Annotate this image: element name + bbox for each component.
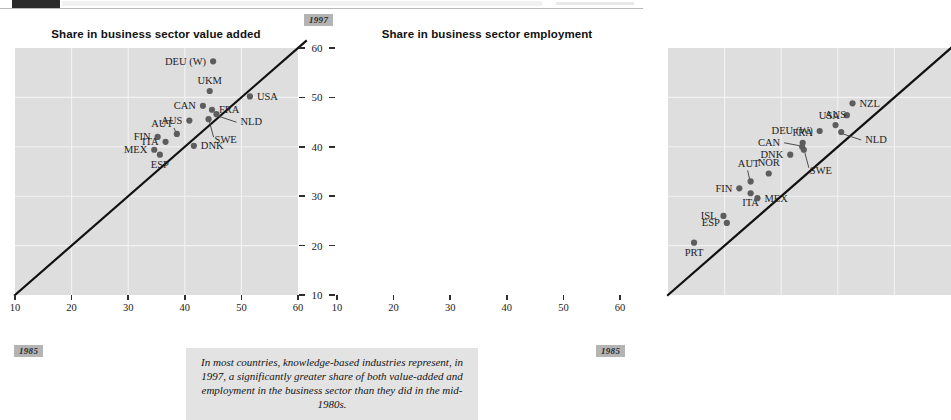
x-axis-label: 20 — [388, 302, 399, 313]
point-label: DNK — [201, 140, 224, 151]
point-label: USA — [257, 91, 278, 102]
figure-caption: In most countries, knowledge-based indus… — [186, 348, 478, 420]
point-label: FRA — [792, 127, 813, 138]
plot-area-employment: NZLUSAAUSDEU (W)NLDFRACANSWEDNKNORAUTFIN… — [668, 48, 951, 295]
x-axis-tick — [619, 295, 621, 300]
data-point-nzl: NZL — [849, 98, 880, 109]
x-axis-tick — [184, 295, 186, 300]
point-label: AUT — [738, 158, 760, 169]
chart-panel-value-added: Share in business sector value added DEU… — [0, 0, 312, 340]
x-axis-tick — [71, 295, 73, 300]
x-axis-tick — [506, 295, 508, 300]
data-point-deuw: DEU (W) — [165, 56, 216, 68]
y-axis-tick-right — [329, 195, 335, 197]
data-point-nld: NLD — [838, 129, 887, 145]
data-point-esp: ESP — [151, 152, 169, 170]
shared-y-axis: 605040302010 — [303, 0, 331, 340]
data-point-usa: USA — [247, 91, 279, 102]
x-axis-tick — [241, 295, 243, 300]
y-axis-tick-right — [329, 97, 335, 99]
year-chip-1985-left: 1985 — [14, 345, 43, 357]
y-axis-label: 50 — [305, 91, 329, 103]
point-label: FIN — [715, 183, 732, 194]
point-label: NLD — [865, 134, 887, 145]
y-axis-tick-right — [329, 47, 335, 49]
point-label: CAN — [174, 100, 197, 111]
x-axis-tick — [563, 295, 565, 300]
data-point-esp: ESP — [702, 217, 730, 228]
point-label: PRT — [685, 247, 704, 258]
point-label: MEX — [764, 193, 788, 204]
point-label: UKM — [197, 75, 222, 86]
x-axis-label: 60 — [293, 302, 304, 313]
data-point-mex: MEX — [754, 193, 788, 204]
x-axis-label: 60 — [615, 302, 626, 313]
point-label: NZL — [860, 98, 880, 109]
data-point-can: CAN — [174, 100, 206, 111]
year-chip-1985-right: 1985 — [596, 345, 625, 357]
chart-title-left: Share in business sector value added — [0, 28, 312, 40]
data-point-aus: AUS — [825, 109, 846, 128]
x-axis-label: 50 — [236, 302, 247, 313]
point-label: CAN — [758, 137, 781, 148]
x-axis-tick — [393, 295, 395, 300]
point-label: FRA — [219, 104, 240, 115]
point-label: SWE — [810, 165, 832, 176]
point-label: MEX — [124, 144, 148, 155]
year-chip-1997: 1997 — [304, 14, 333, 26]
data-point-fra: FRA — [792, 127, 813, 146]
point-label: DEU (W) — [165, 56, 207, 68]
data-point-fin: FIN — [715, 183, 742, 194]
x-axis-tick — [336, 295, 338, 300]
point-label: NOR — [758, 157, 780, 168]
y-axis-label: 40 — [305, 141, 329, 153]
data-point-dnk: DNK — [191, 140, 224, 151]
chart-panel-employment: Share in business sector employment NZLU… — [331, 0, 643, 340]
point-label: ESP — [702, 217, 720, 228]
point-label: AUS — [825, 109, 846, 120]
y-axis-label: 30 — [305, 190, 329, 202]
x-axis-label: 50 — [558, 302, 569, 313]
scatter-svg-value-added: DEU (W)UKMUSACANFRANLDAUSSWEAUTFINITADNK… — [15, 48, 298, 295]
chart-title-right: Share in business sector employment — [331, 28, 643, 40]
data-point-swe: SWE — [801, 147, 832, 176]
x-axis-label: 10 — [10, 302, 21, 313]
x-axis-label: 30 — [445, 302, 456, 313]
y-axis-label: 20 — [305, 240, 329, 252]
scatter-svg-employment: NZLUSAAUSDEU (W)NLDFRACANSWEDNKNORAUTFIN… — [668, 48, 951, 295]
x-axis-label: 40 — [502, 302, 513, 313]
x-axis-tick — [449, 295, 451, 300]
y-axis-label: 60 — [305, 42, 329, 54]
data-point-prt: PRT — [685, 240, 704, 258]
x-axis-tick — [127, 295, 129, 300]
x-axis-label: 20 — [66, 302, 77, 313]
data-point-aut: AUT — [738, 158, 760, 184]
data-point-nor: NOR — [758, 157, 780, 176]
plot-area-value-added: DEU (W)UKMUSACANFRANLDAUSSWEAUTFINITADNK… — [15, 48, 298, 295]
y-axis-label: 10 — [305, 289, 329, 301]
y-axis-tick-right — [329, 245, 335, 247]
point-label: ESP — [151, 159, 169, 170]
y-axis-tick-right — [329, 294, 335, 296]
data-point-ukm: UKM — [197, 75, 222, 94]
point-label: NLD — [240, 116, 262, 127]
x-axis-label: 10 — [332, 302, 343, 313]
point-label: AUT — [151, 118, 173, 129]
x-axis-label: 40 — [180, 302, 191, 313]
x-axis-tick — [14, 295, 16, 300]
y-axis-tick-right — [329, 146, 335, 148]
x-axis-label: 30 — [123, 302, 134, 313]
